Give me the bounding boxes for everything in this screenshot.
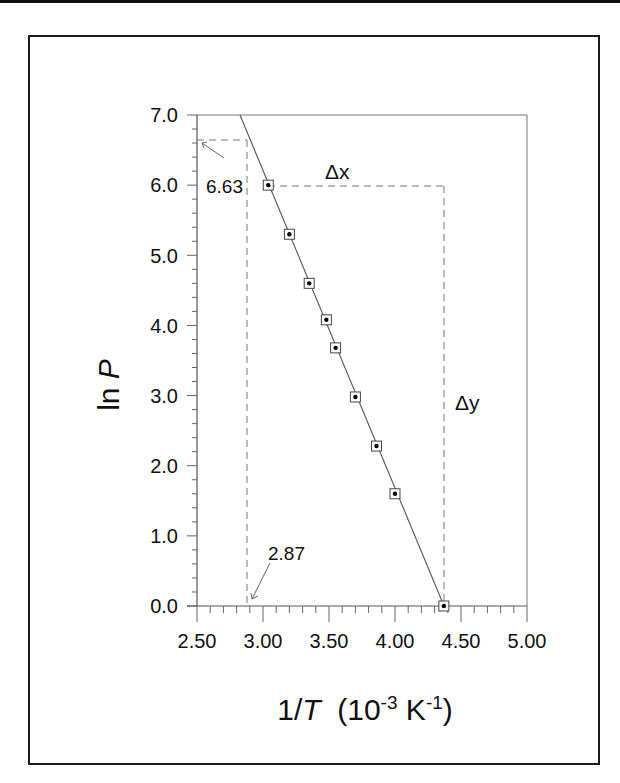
y-tick-label: 2.0 — [150, 455, 178, 477]
y-tick-label: 3.0 — [150, 385, 178, 407]
annotation-2.87: 2.87 — [268, 543, 305, 564]
x-axis-title: 1/T (10-3 K-1) — [277, 692, 453, 726]
x-tick-label: 2.50 — [178, 630, 217, 652]
delta-x-label: Δx — [325, 160, 350, 183]
data-point — [304, 278, 314, 288]
data-point — [372, 441, 382, 451]
y-tick-label: 0.0 — [150, 595, 178, 617]
data-point — [321, 315, 331, 325]
arrow-6.63 — [202, 143, 224, 158]
data-point — [390, 489, 400, 499]
annotation-arrows — [202, 142, 270, 599]
data-point — [331, 343, 341, 353]
x-tick-label: 4.50 — [442, 630, 481, 652]
x-tick-label: 5.00 — [508, 630, 547, 652]
data-point — [439, 601, 449, 611]
x-axis: 2.50 3.00 3.50 4.00 4.50 5.00 — [178, 606, 547, 652]
x-tick-label: 3.00 — [244, 630, 283, 652]
y-tick-label: 5.0 — [150, 245, 178, 267]
delta-y-label: Δy — [455, 391, 480, 414]
annotation-6.63: 6.63 — [206, 176, 243, 197]
y-tick-label: 6.0 — [150, 174, 178, 196]
arrow-2.87 — [252, 563, 270, 599]
y-axis: 0.0 1.0 2.0 3.0 4.0 5.0 6.0 7.0 — [150, 104, 197, 617]
y-tick-label: 7.0 — [150, 104, 178, 126]
construction-lines — [197, 140, 444, 606]
x-tick-label: 3.50 — [310, 630, 349, 652]
data-point — [350, 392, 360, 402]
y-tick-label: 4.0 — [150, 315, 178, 337]
data-point — [263, 180, 273, 190]
y-tick-label: 1.0 — [150, 525, 178, 547]
y-axis-title: ln P — [92, 359, 125, 411]
chart: 0.0 1.0 2.0 3.0 4.0 5.0 6.0 7.0 2.50 3.0… — [0, 0, 620, 783]
data-point — [284, 229, 294, 239]
x-tick-label: 4.00 — [376, 630, 415, 652]
